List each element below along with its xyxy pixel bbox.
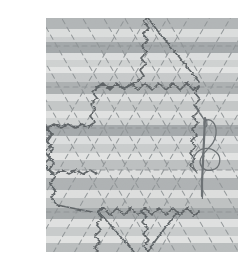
illustration-artwork <box>0 0 250 267</box>
figure-container: 5 <box>0 0 250 267</box>
needle-point <box>202 190 203 199</box>
